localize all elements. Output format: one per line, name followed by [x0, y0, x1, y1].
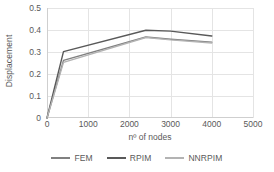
legend-line-icon	[107, 157, 126, 159]
gridline-vertical	[253, 8, 254, 118]
x-tick-label: 5000	[244, 119, 263, 129]
y-axis-title-text: Displacement	[4, 35, 14, 88]
y-tick-label: 0.3	[29, 47, 41, 57]
x-axis-title-text: nº of nodes	[129, 132, 172, 142]
x-tick-label: 0	[45, 119, 50, 129]
y-axis-tick-labels: 00.10.20.30.40.5	[18, 8, 44, 118]
x-tick-label: 3000	[161, 119, 180, 129]
y-tick-label: 0.1	[29, 91, 41, 101]
line-chart: Displacement 00.10.20.30.40.5 0100020003…	[0, 0, 274, 172]
legend-item-fem[interactable]: FEM	[51, 153, 92, 163]
series-lines	[47, 8, 253, 118]
chart-legend: FEMRPIMNNRPIM	[0, 150, 274, 166]
y-axis-title: Displacement	[0, 0, 18, 122]
plot-area	[47, 8, 253, 118]
x-axis-tick-labels: 010002000300040005000	[47, 119, 253, 133]
x-tick-label: 2000	[120, 119, 139, 129]
legend-label: FEM	[74, 153, 92, 163]
y-tick-label: 0	[36, 113, 41, 123]
legend-label: NNRPIM	[188, 153, 222, 163]
legend-line-icon	[51, 157, 70, 159]
y-tick-label: 0.5	[29, 3, 41, 13]
y-tick-label: 0.4	[29, 25, 41, 35]
series-line-rpim	[47, 30, 212, 118]
x-tick-label: 1000	[79, 119, 98, 129]
x-tick-label: 4000	[202, 119, 221, 129]
legend-item-nnrpim[interactable]: NNRPIM	[165, 153, 222, 163]
legend-label: RPIM	[130, 153, 152, 163]
legend-item-rpim[interactable]: RPIM	[107, 153, 152, 163]
x-axis-title: nº of nodes	[47, 132, 253, 142]
y-tick-label: 0.2	[29, 69, 41, 79]
legend-line-icon	[165, 157, 184, 159]
